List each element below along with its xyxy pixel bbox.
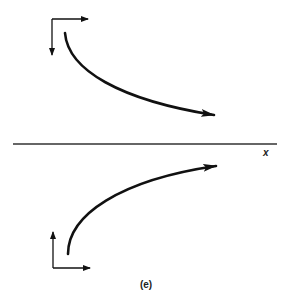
upper-curve-arrow [65,33,214,115]
figure-caption: (e) [140,279,152,290]
diagram-canvas: x (e) [0,0,288,303]
lower-curve-arrow [68,166,216,254]
axis-label-x: x [262,147,269,158]
